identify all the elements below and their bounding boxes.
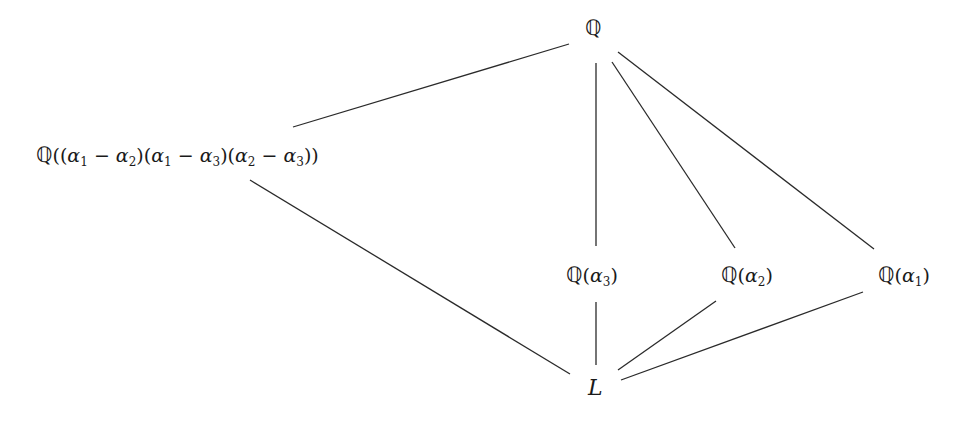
node-Q-alpha1: ℚ(α1) xyxy=(878,265,930,288)
paren: ( xyxy=(895,264,902,286)
blackboard-Q: ℚ xyxy=(566,263,583,287)
paren: ) xyxy=(610,264,617,286)
alpha: α xyxy=(200,144,213,166)
edge-Qa2-L xyxy=(618,301,716,370)
paren: (( xyxy=(53,144,68,166)
blackboard-Q: ℚ xyxy=(878,263,895,287)
edge-Qa1-L xyxy=(621,292,863,380)
edge-Q-Qa1 xyxy=(618,52,874,249)
minus: − xyxy=(88,144,116,166)
paren: ( xyxy=(738,264,745,286)
alpha: α xyxy=(745,264,758,286)
paren: ) xyxy=(765,264,772,286)
edge-Q-Qa2 xyxy=(612,62,735,248)
node-Q-alpha2: ℚ(α2) xyxy=(721,265,773,288)
alpha: α xyxy=(116,144,129,166)
alpha: α xyxy=(151,144,164,166)
paren: )( xyxy=(220,144,235,166)
alpha: α xyxy=(590,264,603,286)
field-L: L xyxy=(588,375,603,400)
node-Q-alpha3: ℚ(α3) xyxy=(566,265,618,288)
node-L: L xyxy=(588,377,603,399)
minus: − xyxy=(172,144,200,166)
paren: ( xyxy=(583,264,590,286)
edge-Q-Qdisc xyxy=(293,44,569,127)
node-Q: ℚ xyxy=(585,18,602,39)
subscript: 1 xyxy=(164,155,172,169)
blackboard-Q: ℚ xyxy=(721,263,738,287)
paren: )( xyxy=(136,144,151,166)
node-discriminant-field: ℚ((α1 − α2)(α1 − α3)(α2 − α3)) xyxy=(36,145,319,168)
edge-Qdisc-L xyxy=(250,180,570,374)
edges-layer xyxy=(0,0,975,426)
alpha: α xyxy=(902,264,915,286)
subscript: 1 xyxy=(80,155,88,169)
subscript: 3 xyxy=(296,155,304,169)
paren: )) xyxy=(304,144,319,166)
blackboard-Q: ℚ xyxy=(36,143,53,167)
blackboard-Q: ℚ xyxy=(585,16,602,40)
alpha: α xyxy=(235,144,248,166)
minus: − xyxy=(255,144,283,166)
paren: ) xyxy=(922,264,929,286)
alpha: α xyxy=(283,144,296,166)
alpha: α xyxy=(67,144,80,166)
subscript: 3 xyxy=(212,155,220,169)
